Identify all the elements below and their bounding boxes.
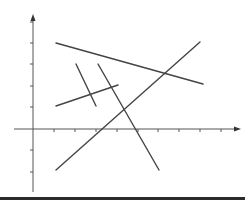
coordinate-diagram (0, 0, 245, 209)
y-axis-arrow-icon (31, 14, 36, 21)
line-segment-a (56, 43, 203, 84)
line-segment-c (76, 64, 96, 106)
line-segment-b (56, 42, 200, 170)
line-segments (56, 42, 203, 170)
bottom-rule-divider (0, 197, 245, 200)
x-axis-arrow-icon (234, 127, 241, 132)
line-segment-d (98, 64, 159, 170)
axes (14, 14, 241, 192)
